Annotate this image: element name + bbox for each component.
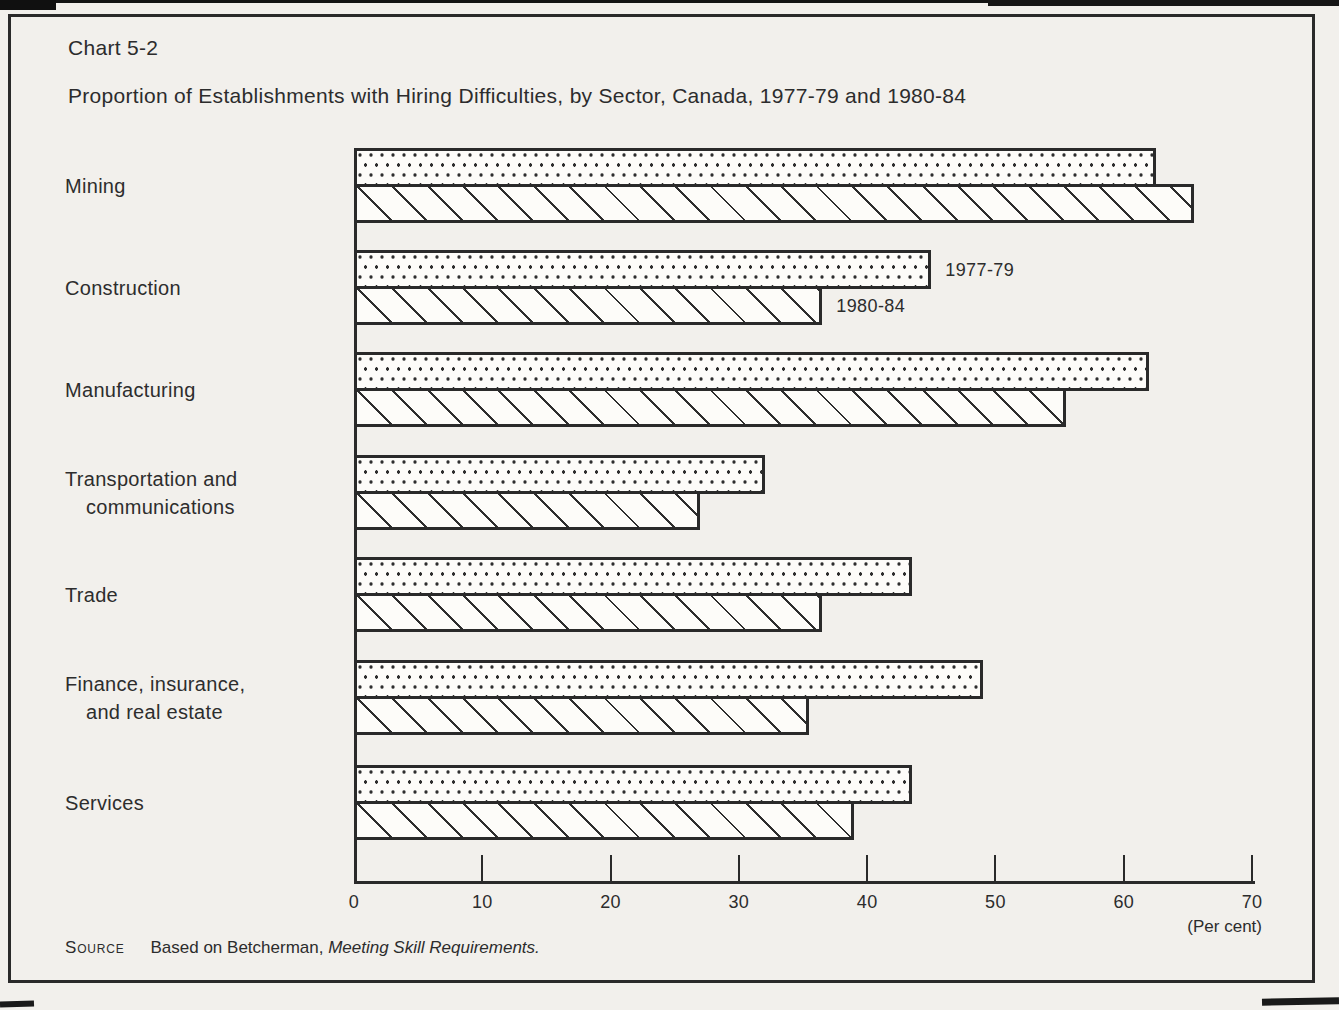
category-label-line: Trade [65,581,343,609]
category-label-line: Manufacturing [65,376,343,404]
scan-artifact [988,0,1339,6]
x-axis-tick [738,855,740,881]
bar-1980-84-trade [354,593,822,632]
source-text: Based on Betcherman, [150,938,323,957]
category-label-line: Finance, insurance, [65,670,343,698]
x-axis-line [354,881,1255,884]
scan-artifact [1262,997,1339,1005]
source-work-title: Meeting Skill Requirements. [328,938,540,957]
category-label: Mining [65,148,343,223]
legend-label-1980-84: 1980-84 [836,295,905,316]
y-axis-line [354,148,357,884]
x-axis-tick-label: 50 [965,892,1025,913]
bar-1980-84-manufacturing [354,388,1066,427]
category-label: Transportation andcommunications [65,455,343,530]
category-label-line: Transportation and [65,465,343,493]
scanned-chart-page: Chart 5-2 Proportion of Establishments w… [0,0,1339,1010]
x-axis-tick-label: 0 [324,892,384,913]
x-axis-tick-label: 10 [452,892,512,913]
legend-label-1977-79: 1977-79 [945,259,1014,280]
category-label-line: and real estate [65,698,343,726]
x-axis-tick [481,855,483,881]
scan-artifact [0,1000,34,1007]
category-label-line: Services [65,789,343,817]
x-axis-tick-label: 40 [837,892,897,913]
x-axis-tick-label: 20 [581,892,641,913]
x-axis-tick [610,855,612,881]
bar-1977-79-transportation-and-communications [354,455,765,494]
x-axis-tick [994,855,996,881]
category-label: Construction [65,250,343,325]
x-axis-tick [1251,855,1253,881]
bar-1980-84-finance-insurance-and-real-estate [354,696,809,735]
category-label-line: Mining [65,172,343,200]
bar-1980-84-services [354,801,854,840]
category-label: Services [65,765,343,840]
bar-1977-79-mining [354,148,1156,187]
x-axis-tick [1123,855,1125,881]
bar-1977-79-construction [354,250,931,289]
bar-1977-79-finance-insurance-and-real-estate [354,660,983,699]
source-note: SourceBased on Betcherman, Meeting Skill… [65,938,540,958]
category-label: Manufacturing [65,352,343,427]
bar-1977-79-services [354,765,912,804]
x-axis-tick-label: 70 [1222,892,1282,913]
chart-main-title: Proportion of Establishments with Hiring… [68,84,1208,108]
source-label: Source [65,938,124,957]
chart-number-title: Chart 5-2 [68,36,158,60]
category-label: Trade [65,557,343,632]
category-label-line: communications [65,493,343,521]
x-axis-tick [866,855,868,881]
x-axis-tick-label: 30 [709,892,769,913]
category-label: Finance, insurance,and real estate [65,660,343,735]
bar-1977-79-manufacturing [354,352,1149,391]
bar-1980-84-mining [354,184,1194,223]
bar-1977-79-trade [354,557,912,596]
bar-1980-84-transportation-and-communications [354,491,700,530]
category-label-line: Construction [65,274,343,302]
x-axis-unit-label: (Per cent) [1118,917,1262,937]
x-axis-tick-label: 60 [1094,892,1154,913]
bar-1980-84-construction [354,286,822,325]
scan-artifact [0,0,56,10]
